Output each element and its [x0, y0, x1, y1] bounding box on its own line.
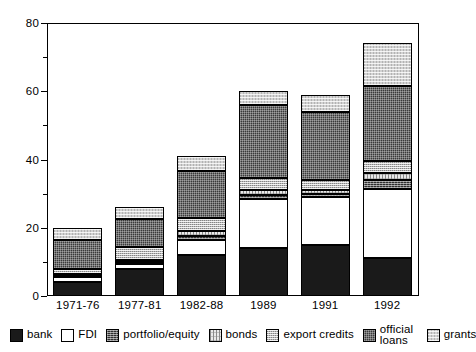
- bar-segment-official-loans: [239, 105, 288, 178]
- bar-segment-official-loans: [301, 112, 350, 180]
- bar-segment-export-credits: [301, 180, 350, 190]
- bar-1992: [363, 43, 412, 296]
- legend-item-bonds[interactable]: bonds: [209, 329, 258, 342]
- bar-segment-FDI: [115, 264, 164, 269]
- legend-item-official-loans[interactable]: official loans: [363, 324, 418, 346]
- bar-1971-76: [53, 228, 102, 296]
- legend-label: official loans: [380, 324, 418, 346]
- bar-1991: [301, 95, 350, 296]
- bar-segment-grants: [239, 91, 288, 105]
- bar-segment-official-loans: [363, 86, 412, 161]
- x-axis-tick-label: 1991: [312, 299, 338, 311]
- legend-swatch-icon: [209, 329, 222, 342]
- y-axis-tick-label: 60: [26, 85, 39, 97]
- legend-swatch-icon: [363, 329, 376, 342]
- bar-segment-bonds: [177, 231, 226, 236]
- bar-segment-export-credits: [53, 269, 102, 274]
- x-axis: 1971-761977-811982-88198919911992: [47, 299, 418, 317]
- legend-label: export credits: [283, 329, 353, 341]
- bar-segment-FDI: [363, 189, 412, 259]
- legend-item-export-credits[interactable]: export credits: [266, 329, 353, 342]
- chart-legend: bankFDIportfolio/equitybondsexport credi…: [10, 320, 434, 350]
- y-axis-tick-label: 20: [26, 222, 39, 234]
- x-axis-tick-label: 1989: [250, 299, 276, 311]
- bar-segment-FDI: [177, 240, 226, 255]
- bar-segment-bank: [301, 245, 350, 296]
- bar-segment-grants: [177, 156, 226, 171]
- legend-swatch-icon: [266, 329, 279, 342]
- bar-segment-official-loans: [115, 219, 164, 246]
- bar-segment-grants: [363, 43, 412, 86]
- bar-1989: [239, 91, 288, 296]
- x-axis-tick-label: 1971-76: [56, 299, 100, 311]
- bar-segment-bank: [53, 282, 102, 296]
- legend-swatch-icon: [106, 329, 119, 342]
- bar-1977-81: [115, 207, 164, 296]
- bar-segment-export-credits: [239, 178, 288, 190]
- y-axis-tick-label: 0: [32, 290, 39, 302]
- legend-item-bank[interactable]: bank: [10, 329, 52, 342]
- bar-segment-export-credits: [363, 161, 412, 173]
- bar-segment-portfolio-equity: [239, 195, 288, 198]
- bar-segment-official-loans: [53, 240, 102, 269]
- bar-segment-bonds: [301, 190, 350, 193]
- legend-swatch-icon: [61, 329, 74, 342]
- legend-swatch-icon: [427, 329, 440, 342]
- bar-segment-grants: [53, 228, 102, 240]
- x-axis-tick-label: 1982-88: [180, 299, 224, 311]
- bar-segment-bonds: [239, 190, 288, 195]
- bar-segment-portfolio-equity: [177, 236, 226, 239]
- bar-segment-bank: [115, 269, 164, 296]
- bar-segment-bank: [363, 258, 412, 296]
- bars-layer: [47, 23, 418, 296]
- legend-label: bonds: [226, 329, 258, 341]
- bar-segment-export-credits: [115, 247, 164, 261]
- legend-swatch-icon: [10, 329, 23, 342]
- legend-item-FDI[interactable]: FDI: [61, 329, 97, 342]
- bar-segment-FDI: [53, 277, 102, 282]
- bar-segment-official-loans: [177, 171, 226, 217]
- bar-segment-FDI: [239, 199, 288, 248]
- legend-label: FDI: [78, 329, 97, 341]
- bar-segment-bonds: [115, 260, 164, 262]
- x-axis-tick-label: 1992: [374, 299, 400, 311]
- bar-segment-FDI: [301, 197, 350, 245]
- bar-segment-portfolio-equity: [53, 275, 102, 277]
- y-axis-tick-label: 40: [26, 154, 39, 166]
- legend-label: bank: [27, 329, 52, 341]
- bar-1982-88: [177, 156, 226, 296]
- bar-segment-portfolio-equity: [115, 262, 164, 264]
- bar-segment-bonds: [53, 274, 102, 276]
- legend-label: grants: [444, 329, 476, 341]
- legend-item-portfolio-equity[interactable]: portfolio/equity: [106, 329, 199, 342]
- y-axis-tick: [41, 296, 47, 297]
- bar-segment-portfolio-equity: [363, 180, 412, 189]
- legend-item-grants[interactable]: grants: [427, 329, 476, 342]
- bar-segment-bank: [239, 248, 288, 296]
- legend-label: portfolio/equity: [123, 329, 199, 341]
- y-axis-tick-label: 80: [26, 17, 39, 29]
- bar-segment-grants: [115, 207, 164, 219]
- bar-segment-export-credits: [177, 218, 226, 232]
- x-axis-tick-label: 1977-81: [118, 299, 162, 311]
- bar-segment-bonds: [363, 173, 412, 180]
- bar-segment-portfolio-equity: [301, 194, 350, 197]
- bar-segment-bank: [177, 255, 226, 296]
- bar-segment-grants: [301, 95, 350, 112]
